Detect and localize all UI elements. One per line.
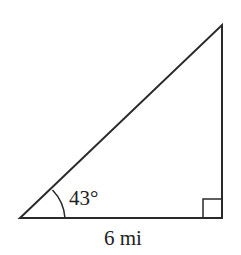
right-angle-marker [203,199,222,218]
angle-arc [53,190,66,218]
angle-label: 43° [69,186,98,210]
triangle-diagram: 43° 6 mi [0,0,241,255]
base-label: 6 mi [104,226,142,250]
triangle-outline [20,25,222,218]
